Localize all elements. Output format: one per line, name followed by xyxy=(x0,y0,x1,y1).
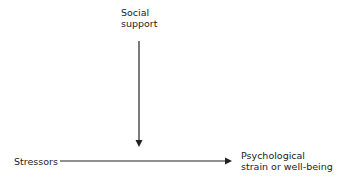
moderation-arrow xyxy=(136,41,143,147)
diagram-arrows xyxy=(0,0,345,179)
moderation-arrowhead xyxy=(136,140,143,147)
main-effect-arrow xyxy=(60,158,232,165)
main-effect-arrowhead xyxy=(225,158,232,165)
